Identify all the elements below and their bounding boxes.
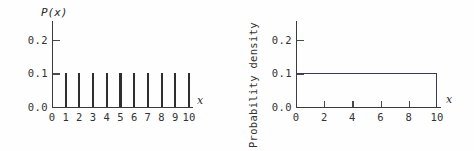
y-tick-mark (53, 40, 60, 41)
impulse-bar (188, 73, 190, 107)
impulse-bar (119, 73, 121, 107)
x-axis-title-right: x (446, 93, 452, 106)
impulse-bar (161, 73, 163, 107)
impulse-bar (92, 73, 94, 107)
impulse-bar (174, 73, 176, 107)
uniform-density-rectangle (296, 73, 437, 107)
y-tick-mark (53, 73, 60, 74)
figure-page: P(x) 0.0 0.1 0.2 0 1 2 3 4 5 6 7 8 9 10 (0, 0, 474, 151)
x-tick-label: 4 (342, 111, 362, 123)
x-axis-line-left (52, 107, 193, 108)
y-tick-mark (297, 40, 304, 41)
impulse-bar (78, 73, 80, 107)
y-axis-line-left (52, 21, 53, 107)
x-tick-label: 10 (180, 111, 198, 123)
impulse-bar (106, 73, 108, 107)
x-tick-label: 6 (371, 111, 391, 123)
y-axis-title-left: P(x) (41, 6, 68, 19)
x-axis-line-right (296, 107, 441, 108)
y-tick-label: 0.1 (256, 67, 292, 79)
y-tick-label: 0.2 (12, 34, 48, 46)
impulse-bar (133, 73, 135, 107)
chart-panel-uniform-density: Probability density 0.0 0.1 0.2 0 2 4 6 … (237, 0, 474, 151)
y-tick-label: 0.2 (256, 34, 292, 46)
x-tick-label: 0 (286, 111, 306, 123)
impulse-bar (65, 73, 67, 107)
x-tick-label: 2 (314, 111, 334, 123)
impulse-bar (147, 73, 149, 107)
x-axis-title-left: x (197, 94, 203, 107)
x-tick-label: 8 (399, 111, 419, 123)
y-tick-label: 0.1 (12, 67, 48, 79)
x-tick-label: 10 (427, 111, 447, 123)
chart-panel-discrete-pmf: P(x) 0.0 0.1 0.2 0 1 2 3 4 5 6 7 8 9 10 (0, 0, 237, 151)
